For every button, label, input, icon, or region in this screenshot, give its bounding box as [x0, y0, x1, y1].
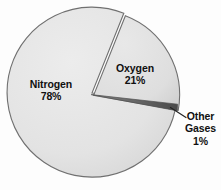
pie-label-other-gases-name-line2: Gases — [180, 122, 221, 134]
pie-label-other-gases: Other Gases 1% — [180, 110, 221, 147]
pie-label-other-gases-value: 1% — [180, 135, 221, 147]
pie-label-oxygen-value: 21% — [104, 74, 166, 86]
pie-chart-figure: Nitrogen 78% Oxygen 21% Other Gases 1% — [0, 0, 221, 190]
pie-label-oxygen-name: Oxygen — [104, 62, 166, 74]
pie-label-nitrogen: Nitrogen 78% — [14, 78, 88, 103]
pie-label-nitrogen-value: 78% — [14, 90, 88, 102]
pie-label-oxygen: Oxygen 21% — [104, 62, 166, 87]
pie-label-nitrogen-name: Nitrogen — [14, 78, 88, 90]
pie-label-other-gases-name-line1: Other — [180, 110, 221, 122]
